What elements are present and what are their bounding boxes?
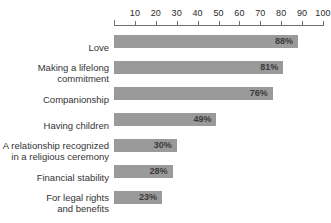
bar-value-label: 76%: [114, 87, 268, 100]
top-axis: 102030405060708090100: [114, 0, 323, 32]
bar-value-label: 23%: [114, 191, 157, 204]
bar-track: 76%: [114, 84, 323, 110]
bar-value-label: 88%: [114, 35, 293, 48]
axis-tick-label: 90: [297, 8, 307, 19]
category-label: A relationship recognized in a religious…: [0, 140, 109, 163]
bar-track: 23%: [114, 188, 323, 214]
bar-rows: Love88%Making a lifelong commitment81%Co…: [0, 32, 331, 223]
axis-tick: [135, 21, 136, 26]
axis-tick: [323, 21, 324, 26]
axis-tick: [260, 21, 261, 26]
axis-tick: [281, 21, 282, 26]
axis-start-tick: [114, 20, 115, 26]
bar-value-label: 30%: [114, 139, 172, 152]
bar-row: Making a lifelong commitment81%: [0, 58, 331, 84]
bar-chart: 102030405060708090100 Love88%Making a li…: [0, 0, 331, 223]
category-label: Having children: [0, 120, 109, 132]
bar-track: 30%: [114, 136, 323, 162]
axis-tick-labels: 102030405060708090100: [114, 8, 323, 20]
bar-row: Love88%: [0, 32, 331, 58]
bar-row: A relationship recognized in a religious…: [0, 136, 331, 162]
axis-tick: [156, 21, 157, 26]
axis-tick-label: 80: [276, 8, 286, 19]
axis-tick: [219, 21, 220, 26]
axis-tick-label: 20: [151, 8, 161, 19]
bar-value-label: 28%: [114, 165, 168, 178]
category-label: Making a lifelong commitment: [0, 62, 109, 85]
axis-tick-label: 10: [130, 8, 140, 19]
axis-tick-label: 30: [172, 8, 182, 19]
axis-tick: [198, 21, 199, 26]
axis-tick: [239, 21, 240, 26]
bar-track: 81%: [114, 58, 323, 84]
category-label: For legal rights and benefits: [0, 192, 109, 215]
category-label: Financial stability: [0, 172, 109, 184]
axis-tick-label: 70: [255, 8, 265, 19]
category-label: Companionship: [0, 94, 109, 106]
bar-track: 88%: [114, 32, 323, 58]
axis-tick: [302, 21, 303, 26]
bar-row: Financial stability28%: [0, 162, 331, 188]
bar-track: 49%: [114, 110, 323, 136]
axis-tick-label: 60: [234, 8, 244, 19]
bar-value-label: 49%: [114, 113, 211, 126]
axis-tick-label: 50: [213, 8, 223, 19]
bar-row: Companionship76%: [0, 84, 331, 110]
category-label: Love: [0, 42, 109, 54]
bar-row: For legal rights and benefits23%: [0, 188, 331, 214]
axis-tick-label: 40: [192, 8, 202, 19]
bar-track: 28%: [114, 162, 323, 188]
axis-tick-label: 100: [315, 8, 330, 19]
axis-tick: [177, 21, 178, 26]
bar-value-label: 81%: [114, 61, 278, 74]
bar-row: Having children49%: [0, 110, 331, 136]
